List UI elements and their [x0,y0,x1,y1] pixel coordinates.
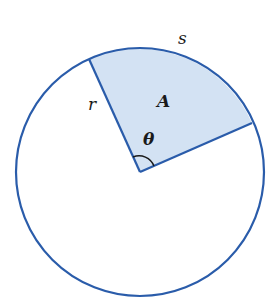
radius-label: r [88,94,97,114]
sector-diagram: s r A θ [0,0,280,308]
angle-label: θ [143,129,155,149]
arc-length-label: s [178,28,187,48]
shaded-sector [89,49,252,172]
area-label: A [155,91,170,111]
